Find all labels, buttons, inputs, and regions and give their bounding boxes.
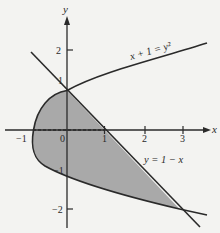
- x-axis-label: x: [211, 123, 217, 135]
- y-tick-label-2: 2: [56, 45, 61, 56]
- x-tick-label-0: 0: [60, 133, 65, 144]
- x-tick-label-neg1: −1: [16, 133, 27, 144]
- y-tick-label-neg1: −1: [53, 165, 64, 176]
- x-tick-label-3: 3: [180, 133, 185, 144]
- x-tick-label-2: 2: [142, 133, 147, 144]
- y-axis-arrow-icon: [64, 16, 70, 25]
- region-diagram: y x 2 1 −1 −2 −1 0 1 2 3 x + 1 = y² y = …: [0, 0, 220, 233]
- x-tick-label-1: 1: [102, 133, 107, 144]
- parabola-equation-label: x + 1 = y²: [128, 39, 174, 62]
- y-axis-label: y: [62, 3, 68, 15]
- line-equation-label: y = 1 − x: [143, 154, 184, 165]
- x-axis-arrow-icon: [203, 127, 211, 133]
- y-tick-label-neg2: −2: [52, 204, 63, 215]
- shaded-region: [32, 91, 179, 210]
- y-tick-label-1: 1: [58, 75, 63, 86]
